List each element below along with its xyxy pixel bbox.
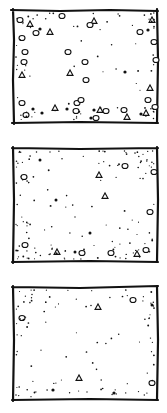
dot	[26, 222, 28, 224]
dot	[96, 342, 98, 344]
dot	[149, 251, 151, 253]
dot	[48, 254, 50, 256]
dot	[53, 383, 54, 384]
dot	[127, 295, 128, 296]
pebble	[121, 107, 127, 112]
dot	[27, 16, 29, 18]
dot	[153, 354, 155, 356]
dot	[151, 166, 152, 167]
dot	[111, 338, 113, 340]
dot	[26, 225, 27, 226]
pebble	[103, 108, 109, 113]
dot	[115, 177, 116, 178]
blob	[146, 28, 149, 31]
dot	[144, 243, 145, 244]
dot	[133, 252, 134, 253]
dot	[153, 118, 154, 119]
dot	[109, 297, 110, 298]
dot	[139, 178, 140, 179]
dot	[104, 151, 106, 153]
dot	[76, 299, 77, 300]
blob	[112, 391, 115, 394]
dot	[34, 258, 35, 259]
dot	[115, 256, 117, 258]
dot	[73, 65, 75, 67]
dot	[153, 64, 154, 65]
dot	[91, 290, 92, 291]
pebble	[145, 97, 151, 102]
dot	[30, 396, 31, 397]
dot	[35, 252, 37, 254]
dot	[119, 15, 121, 17]
dot	[34, 112, 35, 113]
dot	[22, 21, 23, 22]
dot	[148, 19, 149, 20]
dot	[35, 391, 36, 392]
pebble	[151, 169, 157, 174]
pebble	[22, 49, 28, 54]
dot	[126, 153, 128, 155]
dot	[138, 222, 139, 223]
dot	[119, 243, 120, 244]
dot	[140, 160, 142, 162]
dot	[16, 182, 18, 184]
dot	[116, 393, 117, 394]
dot	[21, 216, 22, 217]
dot	[66, 195, 68, 197]
dot	[93, 13, 94, 14]
dot	[17, 306, 19, 308]
dot	[149, 314, 150, 315]
dot	[55, 382, 56, 383]
dot	[29, 75, 30, 76]
dot	[25, 296, 26, 297]
dot	[18, 386, 20, 388]
dot	[28, 322, 30, 324]
pebble	[122, 163, 128, 168]
dot	[22, 162, 23, 163]
blob	[89, 232, 92, 235]
dot	[26, 180, 28, 182]
dot	[137, 151, 139, 153]
dot	[125, 258, 127, 260]
dot	[40, 255, 41, 256]
dot	[45, 18, 47, 20]
dot	[30, 27, 31, 28]
dot	[20, 176, 21, 177]
dot	[73, 26, 74, 27]
dot	[97, 257, 99, 259]
dot	[72, 204, 74, 206]
dot	[150, 291, 152, 293]
dot	[29, 224, 31, 226]
dot	[49, 296, 51, 298]
dot	[136, 83, 137, 84]
dot	[153, 364, 155, 366]
dot	[151, 351, 152, 352]
dot	[153, 302, 155, 304]
dot	[51, 244, 52, 245]
dot	[111, 394, 112, 395]
dot	[138, 391, 139, 392]
pebble	[87, 22, 93, 27]
dot	[142, 154, 143, 155]
dot	[106, 224, 107, 225]
dot	[31, 294, 32, 295]
dot	[33, 289, 35, 291]
dot	[106, 21, 108, 23]
pebble	[153, 57, 159, 62]
dot	[64, 250, 66, 252]
dot	[125, 152, 126, 153]
dot	[144, 107, 146, 109]
dot	[19, 245, 21, 247]
dot	[17, 351, 18, 352]
pebble	[17, 17, 23, 22]
dot	[143, 296, 144, 297]
dot	[77, 25, 79, 27]
dot	[50, 205, 52, 207]
pebble	[108, 250, 114, 255]
dot	[150, 70, 152, 72]
dot	[27, 223, 28, 224]
panel-2-debris	[15, 150, 157, 259]
dot	[36, 14, 38, 16]
dot	[40, 350, 41, 351]
dot	[47, 189, 49, 191]
